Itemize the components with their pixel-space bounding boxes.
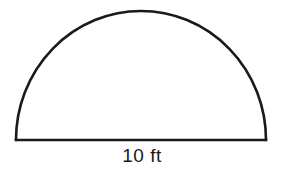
semicircle-arc	[16, 11, 266, 140]
diameter-label: 10 ft	[0, 145, 284, 167]
